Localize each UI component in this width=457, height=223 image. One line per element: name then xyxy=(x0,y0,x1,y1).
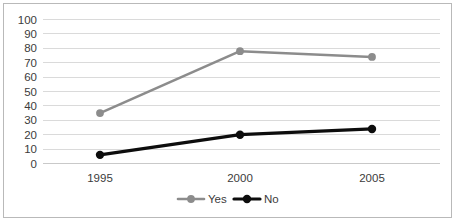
legend-label: No xyxy=(264,193,279,205)
data-point xyxy=(236,47,244,55)
data-point xyxy=(96,151,104,159)
data-point xyxy=(368,125,376,133)
series-no xyxy=(96,125,376,159)
legend-dot-marker xyxy=(243,195,251,203)
data-point xyxy=(368,53,376,61)
chart-legend: YesNo xyxy=(178,193,279,205)
y-tick-label: 30 xyxy=(24,114,37,126)
legend-item-yes[interactable]: Yes xyxy=(178,193,227,205)
x-tick-label: 2005 xyxy=(359,172,385,184)
legend-dot-marker xyxy=(187,195,195,203)
y-tick-label: 40 xyxy=(24,100,37,112)
y-tick-label: 0 xyxy=(31,158,37,170)
y-tick-label: 90 xyxy=(24,28,37,40)
data-point xyxy=(236,131,244,139)
y-tick-label: 100 xyxy=(18,14,37,26)
legend-label: Yes xyxy=(208,193,227,205)
series-line xyxy=(100,51,372,113)
y-axis-tick-labels: 0102030405060708090100 xyxy=(18,14,37,170)
y-tick-label: 80 xyxy=(24,42,37,54)
y-tick-label: 20 xyxy=(24,129,37,141)
legend-item-no[interactable]: No xyxy=(234,193,279,205)
y-tick-label: 70 xyxy=(24,57,37,69)
data-point xyxy=(96,109,104,117)
series-yes xyxy=(96,47,376,117)
x-tick-label: 2000 xyxy=(227,172,253,184)
gridlines xyxy=(43,20,440,164)
line-chart: 0102030405060708090100 199520002005 YesN… xyxy=(0,0,457,223)
data-series-group xyxy=(96,47,376,159)
y-tick-label: 60 xyxy=(24,71,37,83)
x-tick-label: 1995 xyxy=(87,172,113,184)
y-tick-label: 10 xyxy=(24,143,37,155)
series-line xyxy=(100,129,372,155)
y-tick-label: 50 xyxy=(24,86,37,98)
x-axis-tick-labels: 199520002005 xyxy=(87,172,385,184)
